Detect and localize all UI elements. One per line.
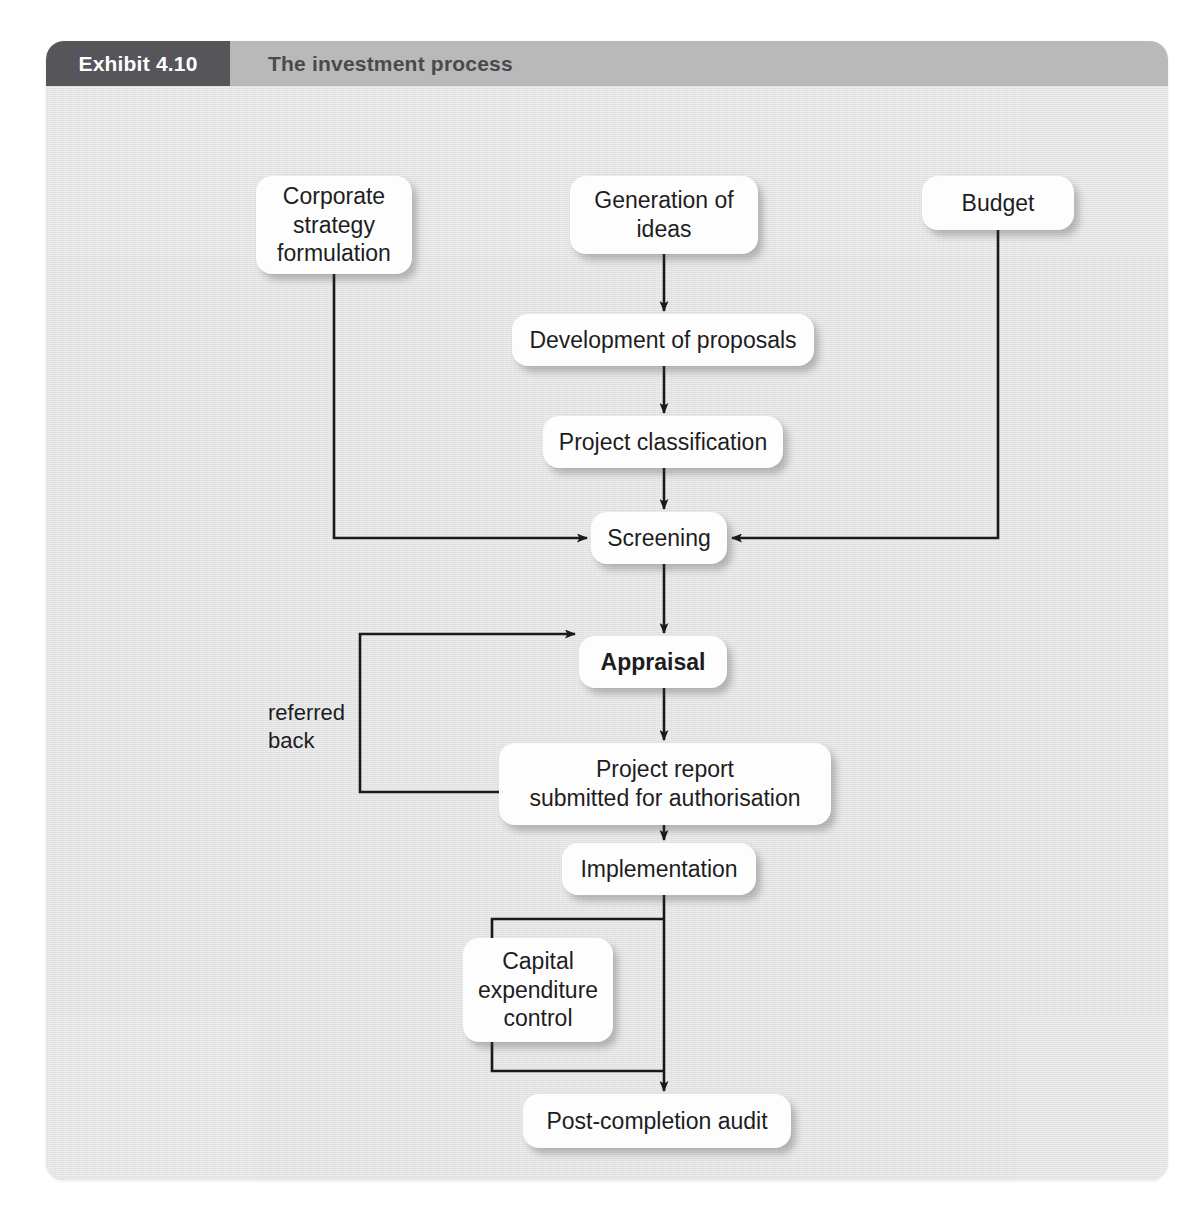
node-appraisal[interactable]: Appraisal	[579, 636, 727, 688]
node-generation-of-ideas[interactable]: Generation of ideas	[570, 176, 758, 254]
node-budget[interactable]: Budget	[922, 176, 1074, 230]
node-label: Capital expenditure control	[478, 947, 598, 1034]
node-implementation[interactable]: Implementation	[562, 843, 756, 895]
exhibit-number-tab: Exhibit 4.10	[46, 41, 230, 86]
node-label: Project classification	[559, 428, 767, 457]
node-label: Generation of ideas	[594, 186, 733, 244]
exhibit-panel: Exhibit 4.10 The investment process	[46, 41, 1168, 1180]
node-label: Screening	[607, 524, 711, 553]
exhibit-number-label: Exhibit 4.10	[78, 52, 197, 76]
edge-budget-to-screening	[732, 230, 998, 538]
node-project-classification[interactable]: Project classification	[543, 416, 783, 468]
node-project-report-submitted-for-authorisation[interactable]: Project report submitted for authorisati…	[499, 743, 831, 825]
node-label: Post-completion audit	[546, 1107, 767, 1136]
node-label: Corporate strategy formulation	[277, 182, 391, 269]
node-development-of-proposals[interactable]: Development of proposals	[512, 314, 814, 366]
node-capital-expenditure-control[interactable]: Capital expenditure control	[463, 938, 613, 1042]
flowchart-canvas: Corporate strategy formulation Generatio…	[46, 86, 1168, 1180]
exhibit-title: The investment process	[268, 41, 513, 86]
node-label: Budget	[962, 189, 1035, 218]
node-screening[interactable]: Screening	[591, 512, 727, 564]
node-post-completion-audit[interactable]: Post-completion audit	[523, 1094, 791, 1148]
node-label: Project report submitted for authorisati…	[529, 755, 800, 813]
exhibit-header: Exhibit 4.10 The investment process	[46, 41, 1168, 86]
node-label: Appraisal	[601, 648, 706, 677]
node-corporate-strategy-formulation[interactable]: Corporate strategy formulation	[256, 176, 412, 274]
node-label: Development of proposals	[529, 326, 796, 355]
label-referred-back: referred back	[268, 699, 345, 754]
node-label: Implementation	[580, 855, 737, 884]
